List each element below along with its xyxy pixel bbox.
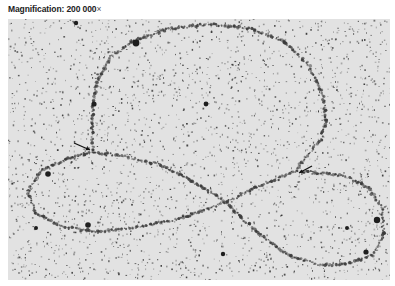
times-symbol: ×	[97, 4, 102, 14]
magnification-label: Magnification: 200 000	[8, 4, 97, 14]
dense-particles	[34, 21, 380, 256]
electron-micrograph	[8, 19, 390, 280]
beaded-strand	[26, 22, 386, 267]
magnification-caption: Magnification: 200 000×	[8, 4, 101, 14]
annotation-arrows	[74, 143, 312, 173]
background-speckles	[8, 19, 390, 280]
micrograph-image	[8, 19, 390, 280]
